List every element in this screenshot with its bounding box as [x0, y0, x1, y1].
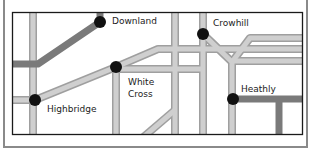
label-highbridge: Highbridge — [47, 104, 97, 115]
road-map-diagram: Downland Crowhill White Cross Highbridge… — [0, 0, 317, 150]
crowhill-node-icon — [197, 28, 209, 40]
downland-node-icon — [94, 16, 106, 28]
label-heathly: Heathly — [241, 84, 276, 95]
road-downland-west — [10, 22, 100, 64]
highbridge-node-icon — [29, 94, 41, 106]
map-border — [13, 13, 303, 135]
label-downland: Downland — [112, 16, 157, 27]
label-white-cross-line2: Cross — [128, 89, 153, 100]
heathly-node-icon — [227, 93, 239, 105]
frame-right-line — [306, 0, 308, 148]
white-cross-node-icon — [110, 61, 122, 73]
map-canvas — [0, 0, 317, 150]
roads-layer — [10, 10, 305, 140]
frame-left-line — [3, 0, 5, 148]
label-white-cross-line1: White — [128, 77, 154, 88]
frame-bottom-line — [3, 146, 308, 148]
label-crowhill: Crowhill — [213, 18, 249, 29]
